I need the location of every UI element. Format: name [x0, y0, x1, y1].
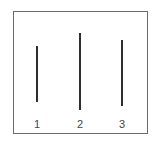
line-label-3: 3 — [116, 118, 128, 130]
line-3 — [121, 40, 123, 106]
line-label-2: 2 — [74, 118, 86, 130]
line-label-1: 1 — [31, 118, 43, 130]
line-2 — [79, 33, 81, 110]
line-1 — [36, 46, 38, 102]
